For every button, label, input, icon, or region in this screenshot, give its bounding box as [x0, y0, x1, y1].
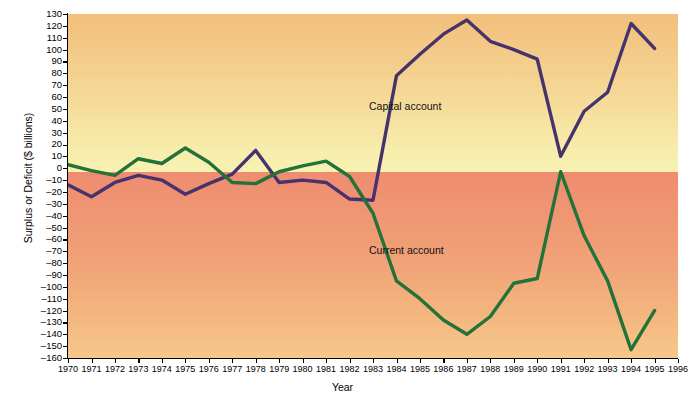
series-layer	[68, 14, 678, 358]
x-tick	[420, 359, 421, 363]
y-tick	[63, 239, 67, 240]
y-tick	[63, 216, 67, 217]
y-axis-title: Surplus or Deficit ($ billions)	[22, 93, 34, 263]
y-tick-label: 80	[22, 68, 62, 77]
x-tick	[373, 359, 374, 363]
series-label-capital-account: Capital account	[369, 100, 441, 112]
y-tick	[63, 26, 67, 27]
x-tick	[256, 359, 257, 363]
y-tick	[63, 73, 67, 74]
x-tick	[655, 359, 656, 363]
y-tick-label: –120	[22, 306, 62, 315]
y-tick	[63, 322, 67, 323]
plot-area	[68, 14, 678, 358]
x-tick	[397, 359, 398, 363]
x-tick	[209, 359, 210, 363]
y-tick-label: 90	[22, 56, 62, 65]
y-tick	[63, 145, 67, 146]
x-tick	[561, 359, 562, 363]
y-tick-label: –130	[22, 317, 62, 326]
y-tick	[63, 133, 67, 134]
x-tick	[138, 359, 139, 363]
y-tick	[63, 204, 67, 205]
y-tick-label: –110	[22, 294, 62, 303]
x-tick	[92, 359, 93, 363]
y-tick	[63, 121, 67, 122]
x-tick	[537, 359, 538, 363]
y-tick-label: 70	[22, 80, 62, 89]
x-tick	[326, 359, 327, 363]
series-label-current-account: Current account	[369, 244, 444, 256]
x-tick	[303, 359, 304, 363]
x-tick	[490, 359, 491, 363]
x-tick	[185, 359, 186, 363]
x-tick	[608, 359, 609, 363]
y-tick	[63, 180, 67, 181]
y-tick	[63, 109, 67, 110]
y-tick	[63, 299, 67, 300]
y-tick	[63, 61, 67, 62]
y-tick-label: 130	[22, 9, 62, 18]
y-tick	[63, 346, 67, 347]
y-tick	[63, 156, 67, 157]
x-axis-title: Year	[0, 381, 685, 393]
x-tick	[68, 359, 69, 363]
y-tick	[63, 311, 67, 312]
y-tick	[63, 275, 67, 276]
y-tick	[63, 287, 67, 288]
y-tick	[63, 85, 67, 86]
y-tick	[63, 263, 67, 264]
y-axis	[67, 13, 68, 359]
x-tick	[443, 359, 444, 363]
x-tick	[350, 359, 351, 363]
y-tick-label: –100	[22, 282, 62, 291]
x-tick	[584, 359, 585, 363]
y-tick	[63, 228, 67, 229]
line-capital-account	[68, 20, 655, 200]
y-tick-label: 110	[22, 33, 62, 42]
x-tick	[678, 359, 679, 363]
y-tick	[63, 358, 67, 359]
y-tick	[63, 97, 67, 98]
y-tick	[63, 38, 67, 39]
x-tick	[232, 359, 233, 363]
y-tick-label: –140	[22, 329, 62, 338]
y-tick	[63, 14, 67, 15]
y-tick-label: –150	[22, 341, 62, 350]
y-tick-label: 120	[22, 21, 62, 30]
x-tick	[467, 359, 468, 363]
x-tick	[514, 359, 515, 363]
x-tick	[279, 359, 280, 363]
y-tick-label: 100	[22, 45, 62, 54]
y-tick	[63, 334, 67, 335]
y-tick	[63, 251, 67, 252]
x-tick	[162, 359, 163, 363]
x-tick	[115, 359, 116, 363]
x-tick	[631, 359, 632, 363]
y-tick	[63, 168, 67, 169]
y-tick-label: –160	[22, 353, 62, 362]
y-tick	[63, 192, 67, 193]
y-tick	[63, 50, 67, 51]
x-tick-label: 1996	[663, 364, 693, 374]
y-tick-label: –90	[22, 270, 62, 279]
